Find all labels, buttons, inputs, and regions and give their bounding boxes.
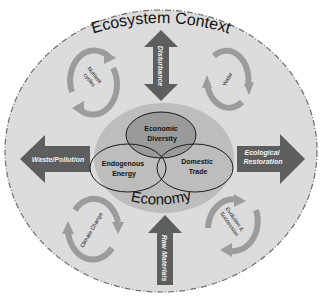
ecosystem-economy-diagram: Ecosystem Context Nutrient cycles Water [0,0,323,297]
disturbance-label: Disturbance [157,46,164,87]
waste-pollution-label: Waste/Pollution [32,156,84,163]
raw-materials-label: Raw Materials [161,235,168,282]
